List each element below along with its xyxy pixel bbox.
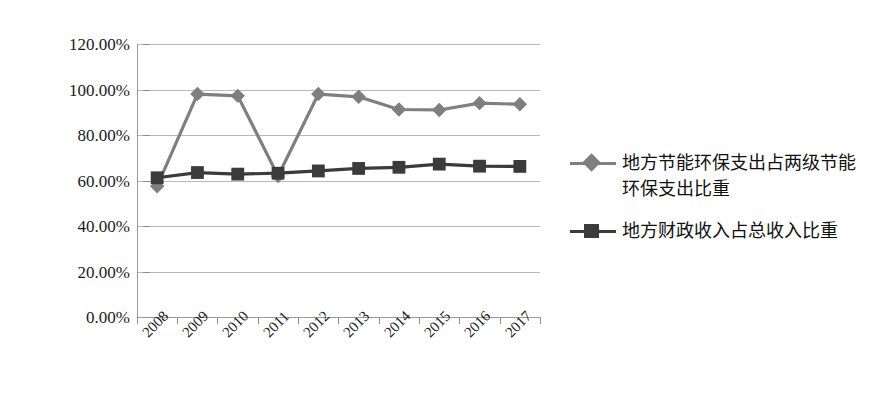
data-point-marker[interactable]	[231, 168, 244, 181]
data-point-marker[interactable]	[473, 160, 486, 173]
series-1-group	[150, 87, 527, 194]
data-point-marker[interactable]	[393, 161, 406, 174]
legend-label-series-2: 地方财政收入占总收入比重	[622, 218, 862, 244]
data-point-marker[interactable]	[351, 90, 365, 104]
data-point-marker[interactable]	[312, 165, 325, 178]
legend-entry-series-1[interactable]: 地方节能环保支出占两级节能环保支出比重	[570, 150, 860, 202]
square-marker-icon	[570, 222, 616, 240]
data-point-marker[interactable]	[352, 162, 365, 175]
series-2-group	[151, 158, 527, 184]
data-point-marker[interactable]	[311, 87, 325, 101]
data-point-marker[interactable]	[190, 87, 204, 101]
chart-container: 120.00% 100.00% 80.00% 60.00% 40.00% 20.…	[0, 0, 869, 401]
chart-legend: 地方节能环保支出占两级节能环保支出比重 地方财政收入占总收入比重	[570, 150, 860, 260]
data-point-marker[interactable]	[272, 167, 285, 180]
data-point-marker[interactable]	[433, 158, 446, 171]
data-point-marker[interactable]	[472, 96, 486, 110]
data-point-marker[interactable]	[392, 102, 406, 116]
legend-label-series-1: 地方节能环保支出占两级节能环保支出比重	[622, 150, 862, 202]
data-point-marker[interactable]	[231, 89, 245, 103]
data-point-marker[interactable]	[151, 171, 164, 184]
data-point-marker[interactable]	[432, 103, 446, 117]
series-2-line	[157, 164, 520, 178]
diamond-marker-icon	[570, 154, 616, 172]
legend-entry-series-2[interactable]: 地方财政收入占总收入比重	[570, 218, 860, 244]
data-point-marker[interactable]	[191, 166, 204, 179]
data-point-marker[interactable]	[513, 160, 526, 173]
data-point-marker[interactable]	[513, 97, 527, 111]
